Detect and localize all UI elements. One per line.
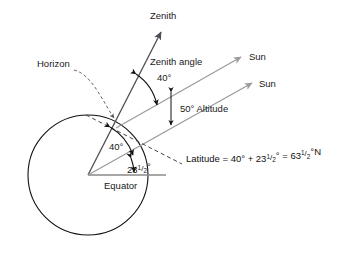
svg-text:231/2°: 231/2° <box>127 161 151 175</box>
zenith-ray-line <box>88 32 161 175</box>
altitude-label: 50° Altitude <box>180 103 228 114</box>
diagram-canvas: Zenith Zenith angle 40° 50° Altitude Hor… <box>0 0 356 261</box>
zenith-angle-label: Zenith angle <box>150 56 202 67</box>
sun-label-upper: Sun <box>249 51 266 62</box>
sun-label-lower: Sun <box>259 78 276 89</box>
zenith-label: Zenith <box>150 10 176 21</box>
zenith-angle-value: 40° <box>157 72 172 83</box>
horizon-leader-line <box>74 70 114 118</box>
horizon-dashed-line <box>86 115 182 164</box>
svg-text:Latitude = 40° + 231/2° = 63: Latitude = 40° + 231/2° = 631/2°N <box>186 146 321 164</box>
horizon-label: Horizon <box>37 58 70 69</box>
c235-deg: ° <box>147 161 151 172</box>
formula-mid: ° = 63 <box>276 150 301 161</box>
center-angle-235-label: 231/2° <box>127 161 151 175</box>
latitude-formula: Latitude = 40° + 231/2° = 631/2°N <box>186 146 321 164</box>
c235-int: 23 <box>127 164 138 175</box>
equator-label: Equator <box>104 180 137 191</box>
formula-lead: Latitude = 40° + 23 <box>186 153 266 164</box>
formula-tail: °N <box>310 146 321 157</box>
center-angle-40-label: 40° <box>109 141 124 152</box>
sun-ray-upper-line <box>116 57 241 128</box>
latitude-solar-diagram: Zenith Zenith angle 40° 50° Altitude Hor… <box>0 0 356 261</box>
zenith-angle-arc <box>136 74 157 105</box>
